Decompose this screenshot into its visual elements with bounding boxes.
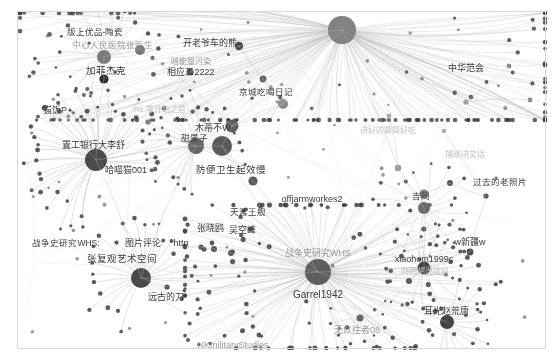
bottom-margin bbox=[0, 350, 554, 360]
top-margin bbox=[0, 0, 554, 11]
network-graph-view[interactable]: 版上优品-陶瓷中心人民医院张医生开老爷车的熊暗能量污染相应工2222加菲杰克猫饭… bbox=[0, 0, 554, 360]
graph-canvas[interactable] bbox=[0, 0, 554, 360]
